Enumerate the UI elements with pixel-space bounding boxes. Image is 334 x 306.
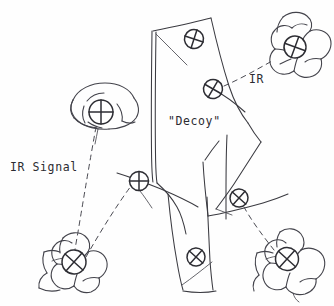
ir-signal-lines [74,61,274,257]
marker-aircraft-bottom-left [57,245,91,279]
sketch-canvas: IR Signal "Decoy" IR [0,0,334,306]
ir-line-top-right [224,61,272,86]
marker-decoy-left-wing [130,172,149,191]
marker-aircraft-bottom-right [271,243,303,275]
marker-aircraft-top-right [281,33,309,61]
ir-line-bottom-right [244,207,274,250]
sketch-drawing: IR Signal "Decoy" IR [0,0,334,306]
label-ir: IR [249,72,264,86]
ir-line-bottom-left [86,186,131,257]
marker-decoy-upper [182,27,206,51]
marker-decoy-lower [183,244,208,269]
label-ir-signal: IR Signal [10,160,78,174]
marker-aircraft-mid-left [89,100,113,124]
marker-decoy-mid [200,76,226,102]
label-decoy: "Decoy" [168,114,221,128]
